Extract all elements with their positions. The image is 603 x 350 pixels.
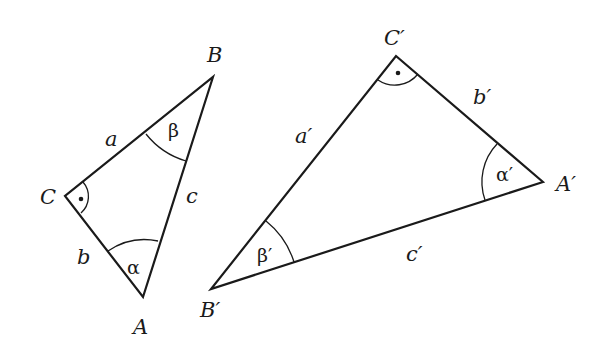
similar-triangles-diagram: B C A a b c β α C′ A′ B′ a′ b′ c′ α′ β′: [0, 0, 603, 350]
side-label-b-prime: b′: [473, 85, 491, 109]
side-label-c-prime: c′: [406, 242, 423, 266]
angle-label-beta-prime: β′: [257, 244, 272, 266]
right-angle-dot-c-prime: [396, 71, 401, 76]
right-angle-dot-c: [79, 197, 84, 202]
vertex-label-c: C: [40, 185, 56, 209]
triangle-a-prime-b-prime-c-prime: C′ A′ B′ a′ b′ c′ α′ β′: [199, 26, 576, 322]
side-label-b: b: [77, 245, 90, 269]
angle-arc-alpha-prime: [482, 144, 497, 200]
vertex-label-b-prime: B′: [199, 298, 220, 322]
vertex-label-a-prime: A′: [554, 172, 576, 196]
side-label-a-prime: a′: [295, 124, 313, 148]
angle-arc-beta: [146, 134, 186, 161]
side-label-c: c: [186, 184, 198, 208]
angle-label-beta: β: [168, 119, 179, 141]
vertex-label-b: B: [206, 43, 222, 67]
triangle-abc: B C A a b c β α: [40, 43, 222, 339]
angle-label-alpha-prime: α′: [496, 163, 513, 185]
angle-arc-alpha: [108, 240, 158, 251]
side-label-a: a: [105, 127, 118, 151]
right-angle-arc-c-prime: [378, 74, 418, 85]
angle-label-alpha: α: [127, 256, 140, 278]
vertex-label-a: A: [131, 315, 148, 339]
vertex-label-c-prime: C′: [384, 26, 405, 50]
